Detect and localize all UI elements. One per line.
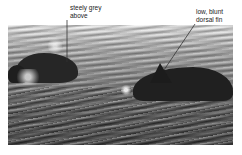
leader-lines bbox=[0, 0, 242, 155]
annotation-dorsal-fin: low, blunt dorsal fin bbox=[196, 8, 223, 23]
leader-line-right bbox=[164, 24, 195, 70]
annotation-steely-grey: steely grey above bbox=[70, 4, 101, 19]
